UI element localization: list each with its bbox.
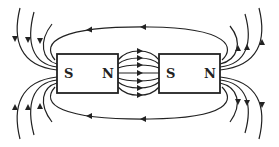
arrow-left-icon (140, 24, 146, 30)
right-fringe-lines (220, 8, 265, 139)
gap-field-lines (118, 48, 159, 98)
pole-label-s: S (166, 66, 175, 81)
arrow-left-icon (86, 27, 92, 33)
pole-label-n: N (102, 66, 114, 81)
arrow-left-icon (86, 113, 92, 119)
pole-label-n: N (204, 66, 216, 81)
arrow-left-icon (140, 116, 146, 122)
magnet-right: S N (159, 54, 220, 93)
magnet-left: S N (57, 54, 118, 93)
pole-label-s: S (64, 66, 73, 81)
magnetic-field-diagram: S N S N (0, 0, 279, 147)
left-fringe-lines (12, 8, 57, 139)
